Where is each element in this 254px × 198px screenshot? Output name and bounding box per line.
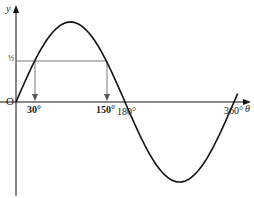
x-axis-label: θ [245, 104, 250, 114]
y-axis-label: y [6, 4, 10, 14]
y-axis-arrow-icon [13, 5, 19, 13]
tick-label-150: 150° [96, 105, 115, 115]
origin-label: O [6, 96, 14, 107]
half-tick-label: ½ [8, 55, 14, 63]
arrow-30-icon [32, 94, 38, 101]
tick-label-180: 180° [117, 107, 136, 117]
tick-label-30: 30° [27, 105, 41, 115]
sine-graph [0, 0, 254, 198]
arrow-150-icon [104, 94, 110, 101]
tick-label-360: 360° [224, 106, 243, 116]
